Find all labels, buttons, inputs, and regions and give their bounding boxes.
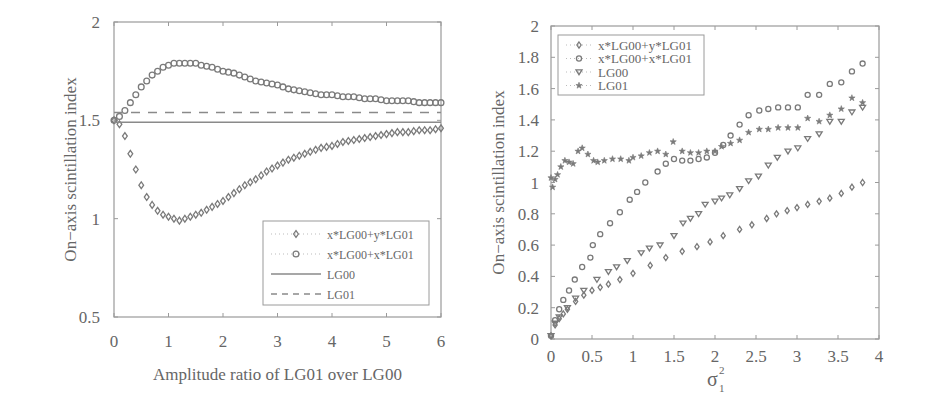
diamond-marker: [648, 262, 652, 268]
circle-marker: [149, 72, 155, 78]
diamond-marker: [237, 186, 242, 193]
circle-marker: [643, 180, 648, 185]
star-marker: [795, 124, 801, 130]
circle-marker: [220, 68, 226, 74]
diamond-marker: [291, 154, 296, 161]
diamond-marker: [133, 166, 138, 173]
star-marker: [670, 139, 676, 145]
star-marker: [704, 148, 710, 154]
circle-marker: [663, 161, 668, 166]
triangle-marker: [774, 155, 780, 160]
diamond-marker: [695, 244, 699, 250]
y-tick-label: 1.2: [518, 142, 539, 161]
circle-marker: [253, 78, 259, 84]
diamond-marker: [281, 159, 286, 166]
diamond-marker: [199, 209, 204, 216]
diamond-marker: [286, 156, 291, 163]
diamond-marker: [182, 215, 187, 222]
circle-marker: [580, 264, 585, 269]
star-marker: [718, 143, 724, 149]
triangle-marker: [680, 221, 686, 226]
circle-marker: [127, 100, 133, 106]
triangle-marker: [687, 216, 693, 221]
diamond-marker: [395, 129, 400, 136]
diamond-marker: [177, 217, 182, 224]
diamond-marker: [861, 180, 865, 186]
star-marker: [630, 154, 636, 160]
triangle-marker: [838, 119, 844, 124]
diamond-marker: [618, 277, 622, 283]
legend-label: LG00: [327, 268, 355, 282]
triangle-marker: [795, 146, 801, 151]
circle-marker: [378, 97, 384, 103]
circle-marker: [269, 81, 275, 87]
diamond-marker: [275, 162, 280, 169]
legend-label: LG01: [327, 288, 355, 302]
y-tick-label: 0.6: [518, 236, 539, 255]
series-x-lg00-x-lg01: [111, 60, 444, 123]
triangle-marker: [702, 202, 708, 207]
triangle-marker: [614, 265, 620, 270]
diamond-marker: [308, 148, 313, 155]
diamond-marker: [128, 150, 133, 157]
series-lg00: [548, 105, 866, 338]
diamond-marker: [253, 176, 258, 183]
diamond-marker: [828, 195, 832, 201]
circle-marker: [757, 108, 762, 113]
series-x-lg00-y-lg01: [112, 117, 444, 224]
diamond-marker: [590, 287, 594, 293]
circle-marker: [849, 69, 854, 74]
diamond-marker: [795, 205, 799, 211]
diamond-marker: [155, 207, 160, 214]
diamond-marker: [264, 168, 269, 175]
diamond-marker: [806, 201, 810, 207]
x-axis-title: σ: [707, 368, 718, 390]
circle-marker: [198, 62, 204, 68]
diamond-marker: [193, 211, 198, 218]
star-marker: [638, 153, 644, 159]
diamond-marker: [302, 150, 307, 157]
x-tick-label: 5: [382, 332, 391, 351]
x-tick-label: 0: [547, 347, 556, 366]
diamond-marker: [139, 182, 144, 189]
triangle-marker: [638, 251, 644, 256]
diamond-marker: [248, 179, 253, 186]
circle-marker: [737, 122, 742, 127]
diamond-marker: [368, 134, 373, 141]
circle-marker: [566, 288, 571, 293]
circle-marker: [226, 69, 232, 75]
triangle-marker: [696, 212, 702, 217]
x-tick-label: 3: [793, 347, 802, 366]
diamond-marker: [259, 172, 264, 179]
circle-marker: [728, 133, 733, 138]
star-marker: [727, 140, 733, 146]
x-tick-label: 1.5: [663, 347, 684, 366]
diamond-marker: [242, 182, 247, 189]
y-tick-label: 1.4: [518, 111, 540, 130]
triangle-marker: [624, 259, 630, 264]
diamond-marker: [400, 129, 405, 136]
circle-marker: [839, 80, 844, 85]
circle-marker: [607, 221, 612, 226]
y-tick-label: 1: [92, 210, 101, 229]
circle-marker: [561, 297, 566, 302]
diamond-marker: [390, 130, 395, 137]
circle-marker: [688, 158, 693, 163]
circle-marker: [680, 158, 685, 163]
circle-marker: [313, 91, 319, 97]
diamond-marker: [680, 248, 684, 254]
y-tick-label: 2: [92, 13, 101, 32]
triangle-marker: [805, 137, 811, 142]
triangle-marker: [646, 246, 652, 251]
triangle-marker: [746, 179, 752, 184]
diamond-marker: [765, 215, 769, 221]
x-tick-label: 6: [437, 332, 446, 351]
y-tick-label: 0.4: [518, 267, 540, 286]
star-marker: [609, 156, 615, 162]
x-axis-title: Amplitude ratio of LG01 over LG00: [153, 365, 402, 384]
left-chart-amplitude-ratio: 01234560.511.52On−axis scintillation ind…: [0, 0, 470, 412]
circle-marker: [817, 92, 822, 97]
circle-marker: [117, 114, 123, 120]
x-tick-label: 3.5: [827, 347, 848, 366]
triangle-marker: [657, 243, 663, 248]
